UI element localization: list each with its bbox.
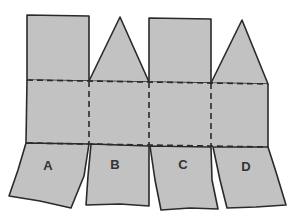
top-flap-triangle-d bbox=[211, 20, 268, 84]
panel-label-b: B bbox=[110, 157, 119, 172]
middle-band bbox=[27, 80, 268, 147]
bottom-panel-d bbox=[213, 147, 286, 208]
top-flap-rectangle-a bbox=[27, 15, 89, 81]
bottom-panel-b bbox=[86, 144, 149, 206]
top-flap-rectangle-c bbox=[149, 18, 211, 83]
panel-label-d: D bbox=[241, 159, 250, 174]
net-diagram: A B C D bbox=[0, 0, 292, 222]
panel-label-c: C bbox=[178, 157, 188, 172]
top-flap-triangle-b bbox=[89, 17, 149, 82]
bottom-panel-c bbox=[150, 146, 218, 210]
left-edge bbox=[26, 80, 27, 143]
bottom-panel-a bbox=[9, 143, 89, 208]
panel-label-a: A bbox=[43, 158, 53, 173]
